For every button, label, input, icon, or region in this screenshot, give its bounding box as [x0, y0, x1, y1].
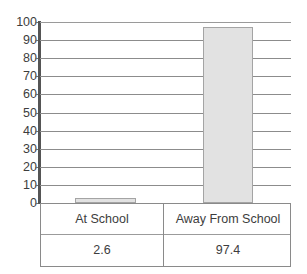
y-axis-tick-label: 10 [3, 179, 37, 191]
gridline-40 [40, 131, 291, 132]
y-axis-tick-label: 70 [3, 70, 37, 82]
bar-chart-figure: 100 90 80 70 60 50 40 30 20 10 0 [0, 0, 307, 274]
y-axis-tick-label: 0 [3, 197, 37, 209]
plot-area [40, 22, 291, 203]
table-cell-category-at-school: At School [41, 204, 163, 235]
y-axis-tick-label: 50 [3, 107, 37, 119]
gridline-70 [40, 76, 291, 77]
y-axis-tick-label: 20 [3, 161, 37, 173]
gridline-50 [40, 113, 291, 114]
table-cell-value-at-school: 2.6 [41, 235, 163, 266]
gridline-30 [40, 149, 291, 150]
gridline-100 [40, 22, 291, 23]
table-row-values: 2.6 97.4 [41, 235, 290, 266]
gridline-90 [40, 40, 291, 41]
gridline-20 [40, 167, 291, 168]
table-row-category-labels: At School Away From School [41, 204, 290, 235]
y-axis-tick-label: 60 [3, 88, 37, 100]
gridline-10 [40, 185, 291, 186]
y-axis-tick-label: 90 [3, 34, 37, 46]
y-axis-tick-label: 80 [3, 52, 37, 64]
y-axis-tick-label: 40 [3, 125, 37, 137]
bar-away-from-school [203, 27, 253, 203]
y-axis-tick-label: 100 [3, 16, 37, 28]
gridline-60 [40, 94, 291, 95]
data-table: At School Away From School 2.6 97.4 [40, 203, 291, 267]
gridline-80 [40, 58, 291, 59]
y-axis-tick-label: 30 [3, 143, 37, 155]
table-cell-category-away-from-school: Away From School [163, 204, 292, 235]
table-cell-value-away-from-school: 97.4 [163, 235, 292, 266]
